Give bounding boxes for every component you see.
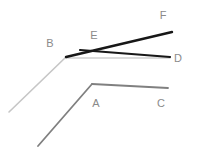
vertex-label-f: F	[160, 9, 167, 21]
figure-background	[0, 0, 197, 149]
vertex-label-d: D	[174, 52, 182, 64]
line-diagram: A B C D E F	[0, 0, 197, 149]
vertex-label-e: E	[90, 29, 97, 41]
vertex-label-b: B	[46, 37, 53, 49]
vertex-label-a: A	[92, 97, 100, 109]
vertex-label-c: C	[157, 97, 165, 109]
